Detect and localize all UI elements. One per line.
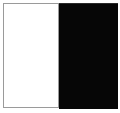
swatch-panel-right-top-edge [59,3,118,4]
swatch-canvas: White Black [0,0,120,113]
swatch-panel-left[interactable]: White [3,3,59,108]
swatch-panel-right[interactable]: Black [59,3,118,109]
